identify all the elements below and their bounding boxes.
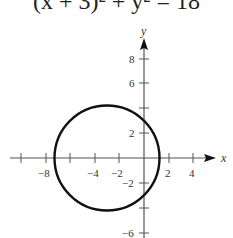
x-tick-label: 2	[165, 167, 171, 179]
x-tick-label: −4	[87, 167, 99, 179]
y-tick-label: −2	[122, 177, 134, 189]
y-axis-label: y	[140, 24, 147, 38]
graph: y x −8 −4 −2 2 4 8 6 2 −2 −6	[0, 0, 233, 238]
x-tick-label: −2	[111, 167, 123, 179]
x-tick-label: 4	[189, 167, 195, 179]
x-tick-label: −8	[38, 167, 50, 179]
y-tick-label: 2	[129, 127, 135, 139]
y-tick-label: 8	[129, 53, 135, 65]
y-tick-label: 6	[129, 77, 135, 89]
x-axis-label: x	[220, 151, 227, 165]
y-tick-label: −6	[122, 227, 134, 238]
